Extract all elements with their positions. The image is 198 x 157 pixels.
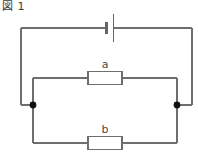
resistor-a-body (88, 72, 122, 85)
junction-dot-right (174, 102, 181, 109)
circuit-diagram: a b (0, 0, 198, 157)
resistor-b-body (88, 137, 122, 150)
battery-symbol (107, 14, 114, 42)
figure-container: 図 1 (0, 0, 198, 157)
resistor-b-label: b (102, 123, 109, 136)
junction-dot-left (30, 102, 37, 109)
resistor-a-label: a (102, 58, 109, 71)
